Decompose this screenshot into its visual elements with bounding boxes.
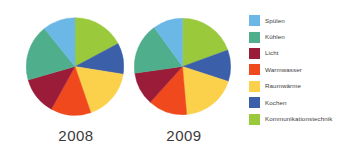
legend-color-swatch	[249, 114, 260, 125]
legend-item-label: Warmwasser	[265, 67, 302, 73]
pie-chart-2009	[134, 18, 231, 115]
legend-item[interactable]: Licht	[249, 46, 358, 62]
legend-item-label: Kochen	[265, 100, 287, 106]
pie-2009-svg	[134, 18, 231, 115]
pie-chart-figure: 2008 2009 SpülenKühlenLichtWarmwasserRau…	[0, 0, 358, 164]
legend-item-label: Licht	[265, 50, 279, 56]
legend-color-swatch	[249, 32, 260, 43]
legend-item[interactable]: Spülen	[249, 13, 358, 29]
legend-item-label: Kommunikationstechnik	[265, 116, 332, 122]
legend-item-label: Spülen	[265, 18, 285, 24]
pie-2009-year-label: 2009	[134, 127, 234, 144]
legend-item[interactable]: Kühlen	[249, 29, 358, 45]
pie-2008-svg	[26, 17, 124, 116]
legend-color-swatch	[249, 64, 260, 75]
legend-item-label: Raumwärme	[265, 83, 301, 89]
legend-item-label: Kühlen	[265, 34, 285, 40]
legend-color-swatch	[249, 48, 260, 59]
pie-chart-2008	[26, 17, 124, 116]
legend-item[interactable]: Raumwärme	[249, 79, 358, 95]
chart-legend: SpülenKühlenLichtWarmwasserRaumwärmeKoch…	[249, 13, 358, 128]
legend-color-swatch	[249, 97, 260, 108]
legend-item[interactable]: Kochen	[249, 95, 358, 111]
legend-item[interactable]: Kommunikationstechnik	[249, 111, 358, 127]
legend-color-swatch	[249, 81, 260, 92]
legend-color-swatch	[249, 15, 260, 26]
pie-2008-year-label: 2008	[26, 127, 126, 144]
legend-item[interactable]: Warmwasser	[249, 62, 358, 78]
